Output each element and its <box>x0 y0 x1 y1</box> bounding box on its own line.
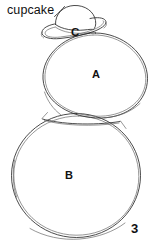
region-label-c: C <box>71 27 79 39</box>
figure-number: 3 <box>131 222 138 235</box>
region-label-b: B <box>65 170 73 181</box>
region-label-a: A <box>92 69 100 80</box>
annotation-label-cupcake: cupcake <box>7 4 54 17</box>
lower-circle-shape <box>12 114 141 240</box>
cupcake-leader-line <box>55 7 65 17</box>
figure-canvas: cupcake A B C 3 <box>0 0 152 245</box>
